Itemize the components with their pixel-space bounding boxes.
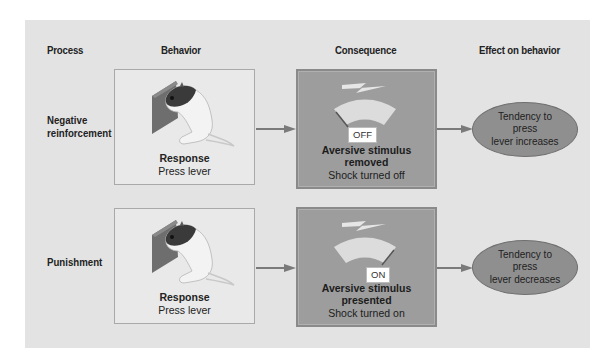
header-effect: Effect on behavior — [479, 44, 560, 56]
effect-ellipse-decreases: Tendency to press lever decreases — [472, 240, 578, 295]
state-badge-off: OFF — [348, 127, 377, 143]
rat-pressing-lever-icon — [148, 215, 238, 290]
header-consequence: Consequence — [335, 44, 396, 56]
process-line: Punishment — [47, 256, 102, 269]
consequence-text: Aversive stimulus presented Shock turned… — [298, 282, 435, 320]
rat-pressing-lever-icon — [148, 76, 238, 151]
arrow-right-icon — [256, 263, 296, 273]
consequence-subtitle: Shock turned on — [298, 307, 435, 320]
effect-line: lever increases — [485, 136, 565, 149]
shock-meter-icon — [326, 75, 406, 135]
arrow-right-icon — [437, 263, 473, 273]
consequence-title: removed — [298, 156, 435, 169]
consequence-box: ON Aversive stimulus presented Shock tur… — [296, 207, 437, 327]
effect-line: Tendency to press — [485, 249, 565, 274]
arrow-right-icon — [437, 124, 473, 134]
behavior-title: Response — [115, 291, 254, 304]
behavior-subtitle: Press lever — [115, 165, 254, 178]
behavior-box: Response Press lever — [114, 69, 255, 185]
process-label-negative-reinforcement: Negative reinforcement — [47, 114, 111, 140]
process-label-punishment: Punishment — [47, 256, 102, 269]
behavior-text: Response Press lever — [115, 152, 254, 178]
shock-meter-icon — [326, 213, 406, 273]
behavior-subtitle: Press lever — [115, 304, 254, 317]
consequence-title: presented — [298, 294, 435, 307]
behavior-text: Response Press lever — [115, 291, 254, 317]
effect-line: Tendency to press — [485, 111, 565, 136]
header-behavior: Behavior — [161, 44, 201, 56]
lightning-bolt-icon — [342, 221, 386, 231]
consequence-box: OFF Aversive stimulus removed Shock turn… — [296, 69, 437, 189]
process-line: Negative — [47, 114, 111, 127]
effect-ellipse-increases: Tendency to press lever increases — [472, 102, 578, 157]
header-process: Process — [47, 44, 83, 56]
effect-line: lever decreases — [485, 274, 565, 287]
arrow-right-icon — [256, 124, 296, 134]
consequence-title: Aversive stimulus — [298, 282, 435, 295]
lightning-bolt-icon — [342, 83, 386, 93]
consequence-title: Aversive stimulus — [298, 144, 435, 157]
consequence-text: Aversive stimulus removed Shock turned o… — [298, 144, 435, 182]
process-line: reinforcement — [47, 127, 111, 140]
consequence-subtitle: Shock turned off — [298, 169, 435, 182]
behavior-box: Response Press lever — [114, 208, 255, 324]
behavior-title: Response — [115, 152, 254, 165]
